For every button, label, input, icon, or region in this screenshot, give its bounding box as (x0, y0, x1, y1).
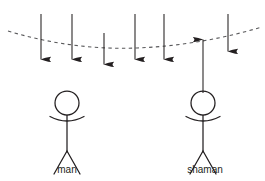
shaman-label: shaman (187, 164, 223, 175)
stick-figure-man (50, 91, 84, 174)
man-label: man (57, 164, 76, 175)
man-head (55, 91, 79, 115)
shaman-head (191, 91, 215, 115)
stick-figure-shaman (186, 91, 220, 174)
gravity-field-diagram: man shaman (0, 0, 265, 181)
field-arrows (41, 14, 228, 93)
